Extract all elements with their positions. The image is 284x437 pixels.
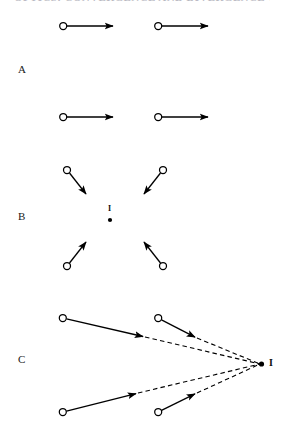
ray-line (70, 242, 87, 263)
dashed-extension-top-left (145, 337, 260, 364)
open-circle-origin-icon (64, 263, 71, 270)
ray-a-bottom-right (155, 114, 208, 121)
image-point-label-b: I (108, 205, 111, 213)
ray-line (67, 319, 144, 337)
dashed-extension-bottom-right (197, 364, 260, 393)
open-circle-origin-icon (160, 263, 167, 270)
open-circle-origin-icon (160, 167, 167, 174)
ray-c-bottom-left (59, 394, 136, 416)
ray-b-bottom-left (64, 242, 87, 270)
ray-b-top-right (144, 167, 167, 195)
ray-line (144, 242, 161, 263)
image-point-b-dot-icon (108, 218, 112, 222)
open-circle-origin-icon (59, 315, 66, 322)
ray-line (144, 173, 161, 194)
ray-line (67, 394, 137, 411)
ray-line (70, 173, 87, 194)
open-circle-origin-icon (59, 409, 66, 416)
open-circle-origin-icon (155, 315, 162, 322)
open-circle-origin-icon (155, 23, 162, 30)
panel-c-virtual-extensions (138, 337, 260, 393)
panel-label-b: B (18, 211, 26, 222)
ray-a-bottom-left (60, 114, 113, 121)
open-circle-origin-icon (60, 23, 67, 30)
ray-c-top-right (155, 315, 195, 338)
open-circle-origin-icon (155, 409, 162, 416)
panel-b-rays (64, 167, 167, 270)
panel-label-a: A (18, 64, 26, 75)
ray-c-bottom-right (155, 394, 195, 416)
ray-line (162, 320, 196, 337)
ray-line (162, 394, 196, 411)
panel-label-c: C (18, 354, 26, 365)
panel-a-rays (60, 23, 208, 121)
ray-diagram-canvas (0, 0, 284, 437)
ray-c-top-left (59, 315, 143, 337)
panel-c-rays (59, 315, 264, 416)
ray-a-top-right (155, 23, 208, 30)
open-circle-origin-icon (155, 114, 162, 121)
open-circle-origin-icon (64, 167, 71, 174)
ray-b-top-left (64, 167, 87, 195)
ray-b-bottom-right (144, 242, 167, 270)
dashed-extension-bottom-left (138, 364, 260, 393)
open-circle-origin-icon (60, 114, 67, 121)
ray-diagram-figure: OPTICS: CONVERGENCE AND DIVERGENCE OF RA… (0, 0, 284, 437)
image-point-c-dot-icon (259, 361, 264, 366)
image-point-label-c: I (269, 358, 273, 368)
ray-a-top-left (60, 23, 113, 30)
